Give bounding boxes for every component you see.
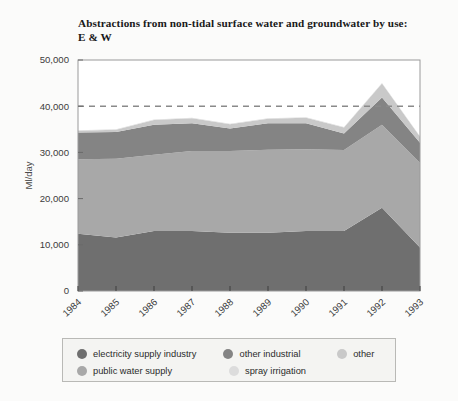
legend-item-other[interactable]: other xyxy=(337,349,395,359)
y-tick-label: 20,000 xyxy=(40,193,69,204)
legend-label: other xyxy=(353,349,374,359)
x-tick-label: 1987 xyxy=(174,296,197,318)
legend-row-2: public water supply spray irrigation xyxy=(77,362,395,379)
legend-label: other industrial xyxy=(239,349,300,359)
x-tick-label: 1988 xyxy=(212,296,235,318)
x-tick-label: 1990 xyxy=(288,296,311,318)
legend-swatch-icon xyxy=(223,349,233,359)
legend-item-public-water-supply[interactable]: public water supply xyxy=(77,366,229,376)
legend-swatch-icon xyxy=(229,366,239,376)
x-tick-label: 1993 xyxy=(402,296,425,318)
legend-label: public water supply xyxy=(93,366,172,376)
x-tick-label: 1984 xyxy=(60,296,84,319)
legend-swatch-icon xyxy=(77,349,87,359)
y-tick-label: 50,000 xyxy=(40,54,69,65)
legend-label: spray irrigation xyxy=(245,366,306,376)
x-tick-label: 1989 xyxy=(250,296,273,318)
x-tick-label: 1985 xyxy=(98,296,121,318)
y-axis-label: Ml/day xyxy=(23,161,34,189)
x-tick-label: 1991 xyxy=(326,296,349,318)
chart-legend: electricity supply industry other indust… xyxy=(62,338,396,382)
x-tick-label: 1986 xyxy=(136,296,159,318)
legend-label: electricity supply industry xyxy=(93,349,196,359)
legend-row-1: electricity supply industry other indust… xyxy=(77,345,395,362)
y-tick-label: 40,000 xyxy=(40,101,69,112)
legend-item-electricity-supply-industry[interactable]: electricity supply industry xyxy=(77,349,223,359)
legend-item-spray-irrigation[interactable]: spray irrigation xyxy=(229,366,347,376)
y-tick-label: 10,000 xyxy=(40,239,69,250)
y-tick-label: 30,000 xyxy=(40,147,69,158)
legend-swatch-icon xyxy=(77,366,87,376)
x-tick-label: 1992 xyxy=(364,296,387,318)
legend-swatch-icon xyxy=(337,349,347,359)
y-tick-label: 0 xyxy=(64,285,69,296)
chart-figure: Abstractions from non-tidal surface wate… xyxy=(0,0,458,401)
legend-item-other-industrial[interactable]: other industrial xyxy=(223,349,337,359)
